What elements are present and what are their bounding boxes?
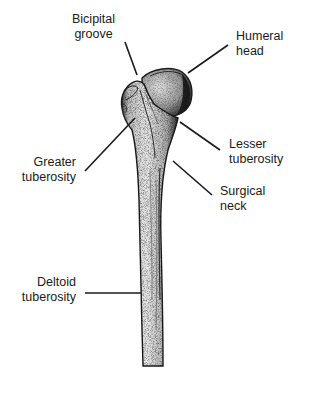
label-surgical-neck: Surgical neck [220,184,265,214]
label-greater-tuberosity: Greater tuberosity [22,155,76,185]
label-bicipital-groove-line2: groove [72,27,115,42]
label-bicipital-groove-line1: Bicipital [72,12,115,27]
label-lesser-tuberosity: Lesser tuberosity [229,137,283,167]
label-greater-tuberosity-line1: Greater [22,155,76,170]
label-humeral-head: Humeral head [236,29,283,59]
label-deltoid-tuberosity-line2: tuberosity [22,290,76,305]
label-surgical-neck-line1: Surgical [220,184,265,199]
leader-surgical-neck [173,161,212,195]
leader-bicipital-groove [125,42,137,75]
label-greater-tuberosity-line2: tuberosity [22,170,76,185]
label-lesser-tuberosity-line2: tuberosity [229,152,283,167]
leader-lesser-tuberosity [180,122,220,150]
label-humeral-head-line1: Humeral [236,29,283,44]
leader-greater-tuberosity [85,118,135,171]
label-lesser-tuberosity-line1: Lesser [229,137,283,152]
label-surgical-neck-line2: neck [220,199,265,214]
label-deltoid-tuberosity-line1: Deltoid [22,275,76,290]
label-deltoid-tuberosity: Deltoid tuberosity [22,275,76,305]
humerus-bone [121,69,191,366]
label-humeral-head-line2: head [236,44,283,59]
leader-humeral-head [188,45,228,73]
label-bicipital-groove: Bicipital groove [72,12,115,42]
